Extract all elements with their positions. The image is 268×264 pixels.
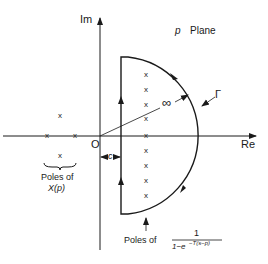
- plane-symbol: p: [175, 26, 181, 36]
- diagram-graphics: [0, 0, 268, 264]
- infinity-pointer: [175, 95, 188, 102]
- fraction-denominator-base: 1−e: [172, 243, 186, 251]
- pole-right: x: [144, 177, 148, 185]
- pole-left: x: [58, 152, 62, 160]
- left-poles-caption-line1: Poles of: [41, 173, 74, 182]
- pole-right: x: [144, 101, 148, 109]
- origin-label: O: [91, 139, 100, 150]
- radius-line: [100, 108, 160, 136]
- real-axis-label: Re: [241, 139, 255, 150]
- offset-c-label: c: [108, 152, 113, 161]
- pole-right: x: [144, 115, 148, 123]
- plane-label: Plane: [190, 26, 216, 36]
- contour-arrow-lower: [118, 177, 124, 185]
- right-poles-caption-prefix: Poles of: [124, 236, 157, 245]
- gamma-pointer: [202, 97, 215, 106]
- left-poles-caption-line2: X(p): [48, 184, 65, 193]
- pole-right: x: [144, 147, 148, 155]
- contour-arrow-upper: [118, 96, 124, 104]
- diagram-canvas: Im Re O p Plane ∞ Γ c x x x x x x x x x …: [0, 0, 268, 264]
- contour-arrow-arc-lower: [180, 185, 186, 193]
- imag-axis-label: Im: [80, 14, 92, 25]
- pole-left: x: [73, 132, 77, 140]
- left-poles-brace: [44, 163, 76, 170]
- fraction-numerator: 1: [194, 229, 199, 238]
- pole-right: x: [144, 86, 148, 94]
- fraction-denominator-exponent: −T(s−p): [189, 240, 210, 246]
- pole-right: x: [144, 192, 148, 200]
- pole-right: x: [144, 71, 148, 79]
- pole-left: x: [45, 132, 49, 140]
- pole-right: x: [144, 162, 148, 170]
- infinity-label: ∞: [162, 96, 171, 109]
- pole-left: x: [58, 112, 62, 120]
- gamma-label: Γ: [215, 89, 221, 100]
- pole-right: x: [144, 132, 148, 140]
